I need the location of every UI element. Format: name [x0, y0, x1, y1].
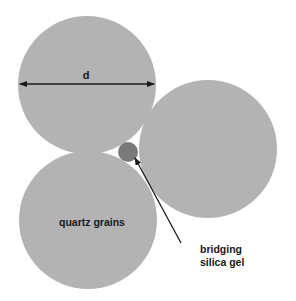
diameter-label: d	[83, 69, 90, 81]
quartz-grain-top	[18, 16, 156, 154]
grain-bridging-diagram: d quartz grains bridging silica gel	[0, 0, 296, 301]
quartz-grain-right	[139, 80, 277, 218]
bridging-gel-label-line1: bridging	[200, 243, 242, 255]
quartz-grains-label: quartz grains	[59, 216, 125, 228]
bridging-gel-label-line2: silica gel	[200, 256, 244, 268]
